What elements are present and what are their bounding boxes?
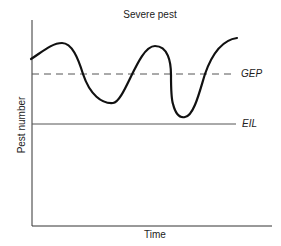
eil-label: EIL: [242, 118, 257, 129]
x-axis-label: Time: [130, 229, 180, 240]
y-axis-label: Pest number: [16, 85, 27, 165]
chart-canvas: [0, 0, 281, 246]
pest-population-curve: [31, 38, 237, 117]
chart-title: Severe pest: [0, 9, 281, 20]
gep-label: GEP: [241, 68, 262, 79]
